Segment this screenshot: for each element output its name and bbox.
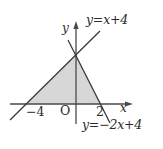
y-axis-label: y xyxy=(62,22,69,34)
shaded-triangle-region xyxy=(27,55,101,104)
line-label-y-equals-x-plus-4: y=x+4 xyxy=(86,14,128,27)
math-figure: y=x+4 y=−2x+4 x y −4 2 O xyxy=(0,0,163,149)
line-label-y-equals-minus-2x-plus-4: y=−2x+4 xyxy=(82,119,142,132)
x-axis-label: x xyxy=(120,102,127,114)
origin-label: O xyxy=(60,105,70,118)
y-axis-arrowhead xyxy=(73,21,78,29)
x-tick-label-2: 2 xyxy=(96,106,104,119)
x-tick-label-minus-4: −4 xyxy=(26,106,44,119)
